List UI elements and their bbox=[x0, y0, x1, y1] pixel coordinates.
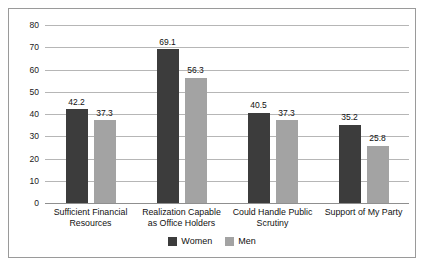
bar-value-label: 35.2 bbox=[334, 113, 366, 122]
bar-women[interactable] bbox=[248, 113, 270, 203]
bar-men[interactable] bbox=[367, 146, 389, 203]
category-label-line: Scrutiny bbox=[219, 218, 326, 229]
category-label-line: Support of My Party bbox=[310, 207, 417, 218]
y-axis-tick-label: 40 bbox=[30, 110, 39, 119]
plot-area: 80706050403020100 42.237.369.156.340.537… bbox=[45, 25, 409, 203]
chart-frame: 80706050403020100 42.237.369.156.340.537… bbox=[8, 8, 416, 258]
bar-men[interactable] bbox=[94, 120, 116, 203]
bar-women[interactable] bbox=[157, 49, 179, 203]
y-axis-tick-label: 20 bbox=[30, 154, 39, 163]
bar-men[interactable] bbox=[276, 120, 298, 203]
bar-group: 42.237.3 bbox=[45, 25, 136, 203]
bar-value-label: 56.3 bbox=[180, 66, 212, 75]
bar-value-label: 25.8 bbox=[362, 134, 394, 143]
bar-value-label: 42.2 bbox=[61, 98, 93, 107]
legend-label: Men bbox=[238, 237, 256, 246]
legend-item[interactable]: Women bbox=[168, 237, 212, 246]
axis-baseline: 0 bbox=[45, 203, 409, 204]
y-axis-tick-label: 30 bbox=[30, 132, 39, 141]
bar-value-label: 69.1 bbox=[152, 38, 184, 47]
y-axis-tick-label: 60 bbox=[30, 65, 39, 74]
legend-swatch-icon bbox=[168, 237, 177, 246]
bar-value-label: 37.3 bbox=[89, 109, 121, 118]
legend-item[interactable]: Men bbox=[225, 237, 256, 246]
legend-swatch-icon bbox=[225, 237, 234, 246]
bar-men[interactable] bbox=[185, 78, 207, 203]
y-axis-tick-label: 50 bbox=[30, 88, 39, 97]
y-axis-tick-label: 80 bbox=[30, 21, 39, 30]
y-axis-tick-label: 10 bbox=[30, 177, 39, 186]
bar-women[interactable] bbox=[339, 125, 361, 203]
legend-label: Women bbox=[181, 237, 212, 246]
bar-group: 69.156.3 bbox=[136, 25, 227, 203]
bars-layer: 42.237.369.156.340.537.335.225.8 bbox=[45, 25, 409, 203]
bar-women[interactable] bbox=[66, 109, 88, 203]
category-label: Support of My Party bbox=[310, 207, 417, 218]
bar-value-label: 37.3 bbox=[271, 109, 303, 118]
bar-group: 35.225.8 bbox=[318, 25, 409, 203]
chart-legend: WomenMen bbox=[9, 237, 415, 246]
bar-group: 40.537.3 bbox=[227, 25, 318, 203]
category-axis: Sufficient FinancialResourcesRealization… bbox=[45, 207, 409, 237]
y-axis-tick-label: 0 bbox=[34, 199, 39, 208]
y-axis-tick-label: 70 bbox=[30, 43, 39, 52]
